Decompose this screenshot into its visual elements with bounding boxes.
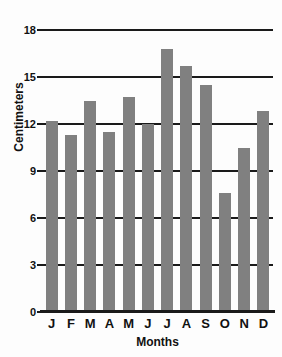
y-axis-tick-label: 12 <box>24 118 36 130</box>
bar <box>219 193 231 312</box>
plot-area: 0369121518 <box>42 30 273 312</box>
bar <box>200 85 212 312</box>
y-axis-tick-label: 18 <box>24 24 36 36</box>
y-axis-tick-label: 0 <box>30 306 36 318</box>
bar <box>142 124 154 312</box>
x-axis-tick-label: J <box>48 316 55 331</box>
bar <box>257 111 269 312</box>
x-axis-tick-label: J <box>164 316 171 331</box>
y-axis-tick-label: 15 <box>24 71 36 83</box>
bar <box>65 135 77 312</box>
y-axis-tick-label: 3 <box>30 259 36 271</box>
y-axis-tick-label: 6 <box>30 212 36 224</box>
x-axis-title: Months <box>42 335 273 349</box>
bar <box>123 97 135 312</box>
x-axis-tick-labels: JFMAMJJASOND <box>42 316 273 336</box>
x-axis-tick-label: M <box>123 316 134 331</box>
bars-layer <box>42 30 273 312</box>
x-axis-tick-label: O <box>220 316 230 331</box>
y-axis-tick-label: 9 <box>30 165 36 177</box>
bar <box>180 66 192 312</box>
bar <box>46 121 58 312</box>
bar <box>161 49 173 312</box>
x-axis-tick-label: S <box>201 316 210 331</box>
x-axis-tick-label: J <box>144 316 151 331</box>
bar-chart-figure: Centimeters 0369121518 JFMAMJJASOND Mont… <box>0 0 282 357</box>
bar <box>238 148 250 313</box>
x-axis-tick-label: M <box>85 316 96 331</box>
x-axis-tick-label: A <box>105 316 114 331</box>
x-axis-tick-label: N <box>239 316 248 331</box>
bar <box>84 101 96 313</box>
x-axis-tick-label: D <box>259 316 268 331</box>
x-axis-tick-label: F <box>67 316 75 331</box>
x-axis-line <box>40 310 275 313</box>
x-axis-tick-label: A <box>182 316 191 331</box>
bar <box>103 132 115 312</box>
